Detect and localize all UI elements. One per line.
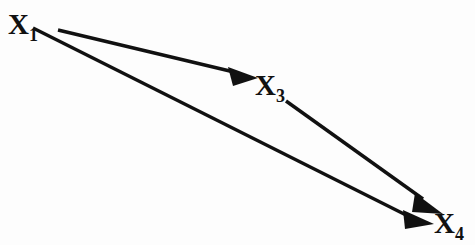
edge-x1-to-x3-arrowhead [228, 67, 258, 86]
edge-x1-to-x3 [58, 30, 258, 86]
edge-x1-to-x4-shaft [33, 28, 410, 217]
edge-x3-to-x4-shaft [286, 101, 423, 199]
node-x4-subscript: 4 [455, 224, 464, 244]
node-label-x1: X1 [8, 10, 38, 39]
node-x3-variable: X [255, 69, 276, 101]
node-x4-variable: X [434, 207, 455, 239]
edge-x3-to-x4 [286, 101, 443, 214]
node-label-x4: X4 [434, 209, 464, 238]
edge-x1-to-x4 [33, 28, 434, 229]
node-label-x3: X3 [255, 71, 285, 100]
node-x1-subscript: 1 [29, 25, 38, 45]
edge-x1-to-x3-shaft [58, 30, 234, 72]
directed-graph-diagram: X1 X3 X4 [0, 0, 475, 245]
node-x1-variable: X [8, 8, 29, 40]
graph-canvas [0, 0, 475, 245]
node-x3-subscript: 3 [276, 86, 285, 106]
